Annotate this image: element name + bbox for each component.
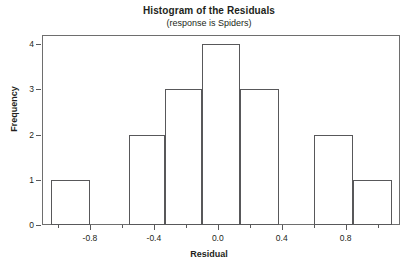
x-axis-tick-label: -0.4 <box>134 233 174 243</box>
histogram-figure: Histogram of the Residuals (response is … <box>0 0 418 276</box>
x-axis-tick-label: 0.4 <box>262 233 302 243</box>
x-axis-tick <box>282 225 283 230</box>
x-axis-tick <box>154 225 155 230</box>
y-axis-tick <box>36 225 41 226</box>
histogram-bar <box>129 135 165 225</box>
histogram-bar <box>202 44 240 225</box>
y-axis-tick-label: 1 <box>12 176 34 185</box>
y-axis-tick <box>36 135 41 136</box>
x-axis-tick-label: 0.0 <box>198 233 238 243</box>
histogram-bar <box>240 89 279 225</box>
y-axis-tick <box>36 44 41 45</box>
x-axis-title: Residual <box>0 249 418 259</box>
plot-area <box>42 35 400 225</box>
x-axis-minor-tick <box>122 225 123 228</box>
x-axis-minor-tick <box>250 225 251 228</box>
x-axis-minor-tick <box>314 225 315 228</box>
x-axis-tick-label: -0.8 <box>70 233 110 243</box>
x-axis-tick <box>218 225 219 230</box>
x-axis-tick <box>346 225 347 230</box>
y-axis-tick <box>36 180 41 181</box>
x-axis-minor-tick <box>378 225 379 228</box>
y-axis-title: Frequency <box>9 59 19 159</box>
x-axis-tick <box>90 225 91 230</box>
y-axis-tick <box>36 89 41 90</box>
chart-title: Histogram of the Residuals <box>0 5 418 16</box>
y-axis-tick-label: 4 <box>12 40 34 49</box>
histogram-bar <box>353 180 392 225</box>
histogram-bar <box>165 89 202 225</box>
x-axis-minor-tick <box>58 225 59 228</box>
histogram-bar <box>51 180 90 225</box>
x-axis-tick-label: 0.8 <box>326 233 366 243</box>
chart-subtitle: (response is Spiders) <box>0 18 418 28</box>
y-axis-tick-label: 0 <box>12 221 34 230</box>
histogram-bar <box>314 135 353 225</box>
x-axis-minor-tick <box>186 225 187 228</box>
